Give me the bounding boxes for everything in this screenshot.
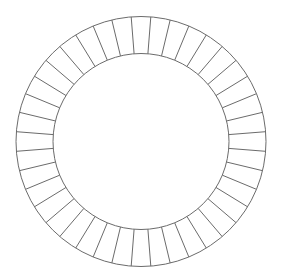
segment-divider — [93, 26, 107, 60]
segment-divider — [227, 112, 263, 121]
segment-divider — [34, 187, 66, 206]
segment-divider — [187, 35, 206, 67]
segment-divider — [16, 148, 53, 151]
segment-divider — [60, 46, 84, 74]
segment-divider — [227, 162, 263, 171]
segment-divider — [26, 175, 60, 189]
segment-divider — [222, 94, 256, 108]
segment-divider — [112, 227, 121, 263]
segment-divider — [229, 132, 266, 135]
segment-divider — [131, 229, 134, 266]
segment-divider — [162, 20, 171, 56]
diagram-canvas — [0, 0, 282, 276]
segment-divider — [175, 26, 189, 60]
segment-divider — [93, 223, 107, 257]
segment-divider — [187, 217, 206, 249]
segment-divider — [76, 35, 95, 67]
segment-divider — [198, 208, 222, 236]
segment-divider — [76, 217, 95, 249]
segment-divider — [208, 199, 236, 223]
segment-divider — [175, 223, 189, 257]
segment-divider — [148, 17, 151, 54]
segment-divider — [46, 60, 74, 84]
inner-ring-circle — [53, 54, 229, 230]
segment-divider — [60, 208, 84, 236]
segment-divider — [229, 148, 266, 151]
segment-divider — [34, 76, 66, 95]
segment-divider — [216, 187, 248, 206]
ring-segment-dividers — [16, 17, 265, 266]
segment-divider — [148, 229, 151, 266]
segment-divider — [198, 46, 222, 74]
segment-divider — [26, 94, 60, 108]
segment-divider — [19, 112, 55, 121]
segment-divider — [19, 162, 55, 171]
segment-divider — [208, 60, 236, 84]
segment-divider — [222, 175, 256, 189]
segment-divider — [131, 17, 134, 54]
segment-divider — [216, 76, 248, 95]
segment-divider — [112, 20, 121, 56]
segment-divider — [16, 132, 53, 135]
segment-divider — [162, 227, 171, 263]
segment-divider — [46, 199, 74, 223]
segmented-ring-diagram — [0, 0, 282, 276]
